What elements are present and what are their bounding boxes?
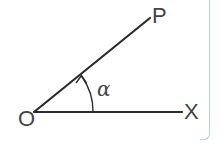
angle-arc <box>82 77 93 113</box>
frame-border-mask <box>150 138 200 146</box>
frame-border <box>150 0 210 140</box>
angle-diagram: O X P α <box>0 0 222 146</box>
vertex-label-o: O <box>18 108 35 130</box>
angle-label-alpha: α <box>97 79 111 99</box>
